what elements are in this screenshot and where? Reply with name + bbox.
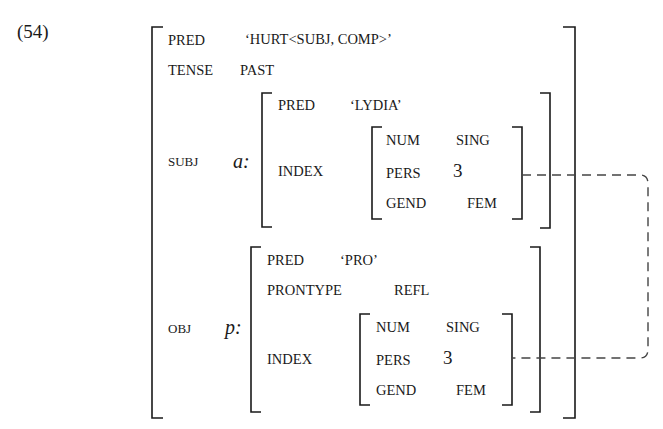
subj-value-pred: ‘LYDIA’ (350, 98, 402, 113)
structure-sharing-dashed-link (512, 175, 648, 358)
obj-value-prontype: REFL (394, 283, 429, 298)
obj-attr-index: INDEX (267, 352, 312, 367)
value-pred: ‘HURT<SUBJ, COMP>’ (245, 32, 392, 47)
subj-bracket-right (540, 93, 550, 228)
obj-attr-prontype: PRONTYPE (267, 283, 342, 298)
attr-pred: PRED (168, 33, 205, 48)
obj-bracket-left (251, 247, 261, 412)
attr-subj: SUBJ (168, 155, 198, 168)
subj-index-value-pers: 3 (453, 161, 463, 180)
obj-value-pred: ‘PRO’ (340, 253, 378, 268)
attr-tense: TENSE (168, 63, 213, 78)
subj-index-bracket-right (512, 127, 522, 219)
outer-bracket-left (152, 27, 163, 418)
subj-attr-pred: PRED (278, 98, 315, 113)
value-tense: PAST (240, 63, 274, 78)
obj-index-bracket-right (502, 314, 512, 405)
subj-index-attr-num: NUM (386, 133, 420, 148)
subj-index-attr-gend: GEND (386, 196, 426, 211)
obj-attr-pred: PRED (267, 253, 304, 268)
brackets-and-links (0, 0, 663, 429)
subj-index-attr-pers: PERS (386, 166, 421, 181)
subj-index-value-num: SING (456, 133, 490, 148)
outer-bracket-right (563, 27, 575, 418)
obj-index-attr-pers: PERS (376, 353, 411, 368)
subj-index-value-gend: FEM (467, 196, 497, 211)
subj-index-bracket-left (372, 127, 382, 219)
subj-label: a: (233, 151, 250, 171)
subj-attr-index: INDEX (278, 164, 323, 179)
obj-index-value-gend: FEM (456, 383, 486, 398)
obj-index-bracket-left (360, 314, 370, 405)
obj-label: p: (225, 317, 242, 337)
obj-bracket-right (530, 247, 540, 412)
attr-obj: OBJ (168, 322, 191, 335)
obj-index-value-num: SING (446, 320, 480, 335)
obj-index-attr-num: NUM (376, 320, 410, 335)
subj-bracket-left (262, 93, 272, 227)
obj-index-attr-gend: GEND (376, 383, 416, 398)
obj-index-value-pers: 3 (443, 348, 453, 367)
example-number: (54) (17, 22, 49, 41)
